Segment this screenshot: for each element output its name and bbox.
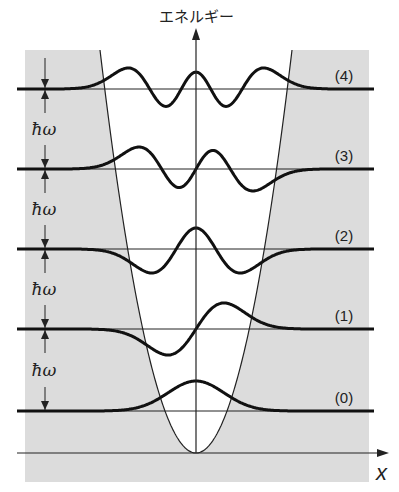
energy-axis-label: エネルギー	[159, 8, 234, 26]
hbar-omega-label: ħω	[32, 360, 57, 380]
hbar-omega-label: ħω	[32, 279, 57, 299]
hbar-omega-label: ħω	[32, 119, 57, 139]
oscillator-diagram: (0)(1)(2)(3)(4) エネルギー x ħωħωħωħω	[0, 0, 399, 492]
level-label-3: (3)	[335, 147, 353, 164]
level-label-2: (2)	[335, 227, 353, 244]
level-label-0: (0)	[335, 389, 353, 406]
hbar-omega-label: ħω	[32, 199, 57, 219]
x-axis-label: x	[375, 460, 388, 485]
level-label-1: (1)	[335, 307, 353, 324]
energy-axis-arrow-icon	[192, 28, 200, 40]
level-label-4: (4)	[335, 67, 353, 84]
x-axis-arrow-icon	[377, 449, 389, 457]
